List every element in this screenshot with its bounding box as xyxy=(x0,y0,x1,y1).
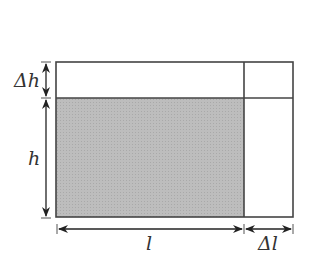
delta-l-label: Δl xyxy=(257,232,278,254)
h-label: h xyxy=(28,147,40,169)
l-label: l xyxy=(146,232,152,254)
original-area xyxy=(56,98,244,217)
area-expansion-diagram: Δh h l Δl xyxy=(0,0,315,263)
delta-h-label: Δh xyxy=(13,69,40,91)
